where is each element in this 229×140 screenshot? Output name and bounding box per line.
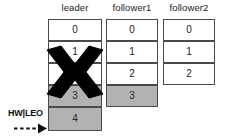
log-cell-leader-0: 0 bbox=[48, 19, 102, 41]
log-cell-follower1-3: 3 bbox=[106, 85, 158, 107]
log-cell-leader-3: 3 bbox=[48, 85, 102, 107]
log-cell-leader-4: 4 bbox=[48, 107, 102, 131]
log-cell-leader-2: 2 bbox=[48, 63, 102, 85]
log-cell-follower1-1: 1 bbox=[106, 41, 158, 63]
dashed-arrow-right-icon bbox=[14, 120, 48, 131]
log-cell-follower2-0: 0 bbox=[163, 19, 215, 41]
column-header-follower2: follower2 bbox=[160, 2, 218, 13]
log-cell-follower1-0: 0 bbox=[106, 19, 158, 41]
log-cell-leader-1: 1 bbox=[48, 41, 102, 63]
log-replication-diagram: leader 0 1 2 3 4 follower1 0 1 2 3 follo… bbox=[0, 0, 229, 140]
log-cell-follower2-1: 1 bbox=[163, 41, 215, 63]
log-cell-follower2-2: 2 bbox=[163, 63, 215, 85]
column-header-leader: leader bbox=[47, 2, 103, 13]
log-cell-follower1-2: 2 bbox=[106, 63, 158, 85]
column-header-follower1: follower1 bbox=[104, 2, 160, 13]
high-watermark-leo-label: HW|LEO bbox=[8, 108, 43, 118]
